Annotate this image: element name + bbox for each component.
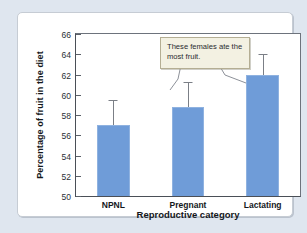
- error-bar-cap: [258, 54, 267, 55]
- y-axis-tick: 58: [76, 115, 81, 116]
- y-axis-tick-label: 50: [62, 193, 71, 202]
- y-axis-tick: 54: [76, 156, 81, 157]
- bar: [97, 125, 130, 196]
- y-axis-tick: 66: [76, 34, 81, 35]
- x-axis-tick-label: Lactating: [244, 201, 282, 210]
- y-axis-tick-label: 58: [62, 112, 71, 121]
- y-axis-tick: 62: [76, 75, 81, 76]
- y-axis-tick-label: 64: [62, 51, 71, 60]
- annotation-callout: These females ate the most fruit.: [160, 37, 250, 69]
- error-bar-stem: [188, 82, 189, 107]
- y-axis-tick: 64: [76, 54, 81, 55]
- x-axis-tick-label: Pregnant: [170, 201, 207, 210]
- y-axis-tick: 60: [76, 95, 81, 96]
- bar: [246, 75, 279, 197]
- error-bar-cap: [184, 82, 193, 83]
- x-axis-tick-label: NPNL: [102, 201, 125, 210]
- y-axis-title: Percentage of fruit in the diet: [35, 51, 45, 179]
- y-axis-tick-label: 60: [62, 92, 71, 101]
- figure-card: Percentage of fruit in the diet Reproduc…: [17, 12, 293, 217]
- x-axis-title: Reproductive category: [137, 209, 240, 220]
- error-bar-stem: [113, 100, 114, 125]
- y-axis-tick-label: 66: [62, 31, 71, 40]
- figure-container: Percentage of fruit in the diet Reproduc…: [0, 0, 307, 233]
- y-axis-tick: 50: [76, 196, 81, 197]
- y-axis-tick-label: 54: [62, 152, 71, 161]
- y-axis-tick: 52: [76, 176, 81, 177]
- y-axis-tick-label: 56: [62, 132, 71, 141]
- error-bar-stem: [263, 54, 264, 74]
- y-axis-tick-label: 62: [62, 71, 71, 80]
- error-bar-cap: [109, 100, 118, 101]
- bar: [172, 107, 205, 196]
- y-axis-tick-label: 52: [62, 173, 71, 182]
- y-axis-tick: 56: [76, 135, 81, 136]
